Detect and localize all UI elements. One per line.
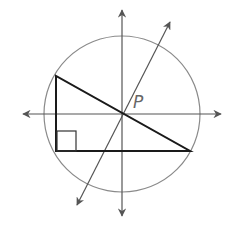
geometry-diagram: P — [0, 0, 239, 231]
right-angle-marker — [57, 131, 76, 151]
point-label: P — [133, 92, 144, 112]
